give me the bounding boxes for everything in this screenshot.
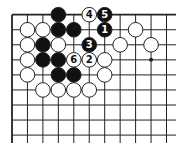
black-stone-move-1: 1 — [97, 22, 112, 37]
white-stone — [113, 38, 128, 53]
white-stone-move-6: 6 — [67, 53, 82, 68]
stones: 451362 — [20, 7, 158, 97]
white-stone — [144, 38, 159, 53]
white-stone — [36, 83, 51, 98]
go-board: 451362 — [0, 0, 184, 151]
black-stone — [51, 53, 66, 68]
black-stone-move-5: 5 — [97, 7, 112, 22]
move-number-label: 4 — [86, 9, 93, 20]
white-stone — [97, 68, 112, 83]
black-stone — [51, 7, 66, 22]
move-number-label: 1 — [101, 24, 108, 35]
white-stone — [97, 53, 112, 68]
white-stone — [51, 38, 66, 53]
move-number-label: 5 — [101, 9, 108, 20]
black-stone — [67, 68, 82, 83]
hoshi-points — [149, 58, 153, 62]
move-number-label: 2 — [86, 54, 93, 65]
move-number-label: 6 — [70, 54, 77, 65]
hoshi-dot — [149, 58, 153, 62]
black-stone — [67, 22, 82, 37]
white-stone — [20, 68, 35, 83]
white-stone — [67, 83, 82, 98]
black-stone-move-3: 3 — [82, 38, 97, 53]
white-stone-move-2: 2 — [82, 53, 97, 68]
black-stone — [36, 38, 51, 53]
white-stone — [20, 38, 35, 53]
white-stone — [20, 22, 35, 37]
white-stone — [128, 22, 143, 37]
black-stone — [36, 53, 51, 68]
white-stone — [36, 22, 51, 37]
white-stone-move-4: 4 — [82, 7, 97, 22]
black-stone — [51, 68, 66, 83]
move-number-label: 3 — [86, 39, 93, 50]
black-stone — [51, 22, 66, 37]
white-stone — [51, 83, 66, 98]
white-stone — [20, 53, 35, 68]
white-stone — [82, 83, 97, 98]
